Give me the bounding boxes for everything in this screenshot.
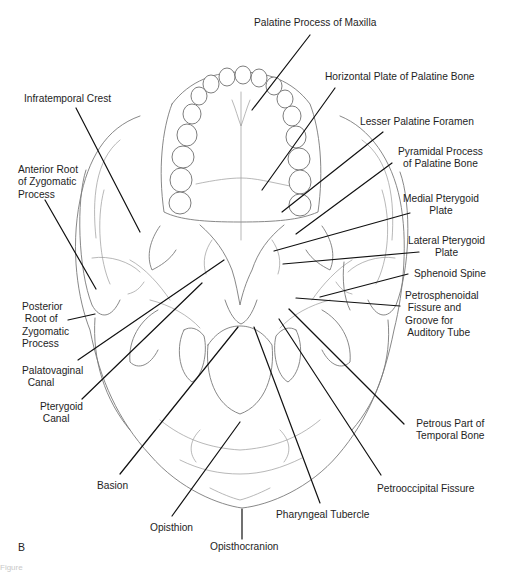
label-pyramidal-process-of-palatine-bone: Pyramidal Process of Palatine Bone — [398, 146, 483, 171]
leader-line-palatovaginal-canal — [78, 260, 224, 360]
label-pharyngeal-tubercle: Pharyngeal Tubercle — [276, 509, 369, 521]
leader-line-pharyngeal-tubercle — [254, 327, 320, 503]
leader-line-petrooccipital-fissure — [279, 319, 381, 475]
cranial-base-structures — [128, 225, 352, 500]
label-anterior-root-of-zygomatic-process: Anterior Root of Zygomatic Process — [18, 164, 78, 201]
label-pterygoid-canal: Pterygoid Canal — [40, 401, 83, 426]
leader-line-sphenoid-spine — [320, 274, 408, 297]
label-lateral-pterygoid-plate: Lateral Pterygoid Plate — [408, 235, 485, 260]
label-palatovaginal-canal: Palatovaginal Canal — [22, 365, 83, 390]
skull-outline — [75, 116, 407, 508]
leader-line-anterior-root-of-zygomatic-process — [45, 200, 96, 289]
leader-line-pterygoid-canal — [82, 283, 202, 399]
leader-line-opisthion — [172, 422, 240, 516]
leader-line-petrous-part-of-temporal-bone — [289, 309, 404, 424]
label-palatine-process-of-maxilla: Palatine Process of Maxilla — [254, 17, 376, 29]
label-lesser-palatine-foramen: Lesser Palatine Foramen — [360, 116, 474, 128]
leader-line-lateral-pterygoid-plate — [283, 252, 419, 264]
teeth — [169, 66, 311, 216]
label-petrooccipital-fissure: Petrooccipital Fissure — [377, 483, 474, 495]
foramen-magnum — [207, 326, 272, 414]
figure-caption-fragment: Figure — [0, 563, 23, 572]
label-basion: Basion — [97, 480, 128, 492]
label-petrosphenoidal-fissure-and-groove-for-auditory-tube: Petrosphenoidal Fissure and Groove for A… — [405, 290, 479, 340]
label-infratemporal-crest: Infratemporal Crest — [24, 93, 111, 105]
label-horizontal-plate-of-palatine-bone: Horizontal Plate of Palatine Bone — [325, 71, 475, 83]
label-opisthion: Opisthion — [150, 522, 193, 534]
panel-letter: B — [18, 541, 25, 553]
label-opisthocranion: Opisthocranion — [210, 541, 279, 553]
label-medial-pterygoid-plate: Medial Pterygoid Plate — [403, 193, 479, 218]
leader-lines — [45, 35, 419, 539]
label-sphenoid-spine: Sphenoid Spine — [414, 268, 486, 280]
leader-line-posterior-root-of-zygomatic-process — [68, 314, 95, 320]
label-posterior-root-of-zygomatic-process: Posterior Root of Zygomatic Process — [22, 301, 69, 351]
label-petrous-part-of-temporal-bone: Petrous Part of Temporal Bone — [416, 418, 485, 443]
leader-line-pyramidal-process-of-palatine-bone — [296, 163, 392, 234]
